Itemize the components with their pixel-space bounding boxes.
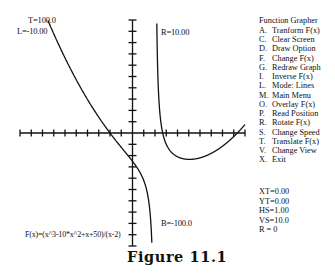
vs-readout: VS=10.0	[259, 216, 289, 226]
curve-right-branch	[157, 23, 245, 159]
menu-item-key: D.	[259, 44, 272, 53]
menu-item-redraw-graph[interactable]: G.Redraw Graph	[259, 63, 321, 72]
menu-item-label: Main Menu	[272, 91, 311, 100]
menu-item-key: X.	[259, 155, 272, 164]
menu-item-key: P.	[259, 109, 272, 118]
function-curve	[48, 20, 245, 242]
menu-item-exit[interactable]: X.Exit	[259, 155, 321, 164]
menu-item-key: V.	[259, 146, 272, 155]
menu-item-label: Exit	[272, 155, 286, 164]
menu-item-inverse-f-x[interactable]: I.Inverse F(x)	[259, 72, 321, 81]
hs-readout: HS=1.00	[259, 206, 289, 216]
menu-item-key: R.	[259, 118, 272, 127]
menu-item-label: Change Speed	[272, 128, 320, 137]
r-readout: R = 0	[259, 225, 289, 235]
menu-item-translate-f-x[interactable]: T.Translate F(x)	[259, 137, 321, 146]
left-bound-label: L=-10.00	[17, 27, 47, 36]
menu-item-key: A.	[259, 26, 272, 35]
menu-item-change-speed[interactable]: S.Change Speed	[259, 128, 321, 137]
menu-item-tranform-f-x[interactable]: A.Tranform F(x)	[259, 26, 321, 35]
menu-item-change-view[interactable]: V.Change View	[259, 146, 321, 155]
xt-readout: XT=0.00	[259, 187, 289, 197]
menu-item-label: Tranform F(x)	[272, 26, 320, 35]
menu-item-label: Inverse F(x)	[272, 72, 313, 81]
menu-item-change-f-x[interactable]: F.Change F(x)	[259, 54, 321, 63]
menu-item-main-menu[interactable]: M.Main Menu	[259, 91, 321, 100]
menu-item-label: Read Position	[272, 109, 318, 118]
menu-item-key: T.	[259, 137, 272, 146]
menu-item-rotate-f-x[interactable]: R.Rotate F(x)	[259, 118, 321, 127]
bottom-bound-label: B=-100.0	[161, 219, 192, 228]
top-bound-label: T=100.0	[28, 16, 56, 25]
menu-item-label: Translate F(x)	[272, 137, 319, 146]
menu-item-clear-screen[interactable]: C.Clear Screen	[259, 35, 321, 44]
menu-item-label: Rotate F(x)	[272, 118, 310, 127]
menu-item-key: L.	[259, 81, 272, 90]
menu-item-key: C.	[259, 35, 272, 44]
menu-item-key: F.	[259, 54, 272, 63]
yt-readout: YT=0.00	[259, 197, 289, 207]
menu-item-key: O.	[259, 100, 272, 109]
menu-item-key: S.	[259, 128, 272, 137]
menu-item-label: Overlay F(x)	[272, 100, 315, 109]
menu-item-key: M.	[259, 91, 272, 100]
menu-item-label: Change View	[272, 146, 317, 155]
right-bound-label: R=10.00	[161, 28, 189, 37]
menu: Function Grapher A.Tranform F(x)C.Clear …	[259, 16, 321, 165]
menu-title: Function Grapher	[259, 16, 321, 25]
menu-item-mode-lines[interactable]: L.Mode: Lines	[259, 81, 321, 90]
menu-item-key: G.	[259, 63, 272, 72]
menu-item-label: Redraw Graph	[272, 63, 321, 72]
axes	[20, 20, 245, 246]
menu-item-label: Draw Option	[272, 44, 316, 53]
menu-item-key: I.	[259, 72, 272, 81]
figure-caption: Figure 11.1	[127, 248, 227, 265]
menu-item-label: Clear Screen	[272, 35, 315, 44]
function-label: F(x)=(x^3-10*x^2+x+50)/(x-2)	[25, 230, 120, 239]
menu-item-label: Mode: Lines	[272, 81, 314, 90]
menu-item-label: Change F(x)	[272, 54, 314, 63]
status-panel: XT=0.00 YT=0.00 HS=1.00 VS=10.0 R = 0	[259, 187, 289, 235]
menu-item-overlay-f-x[interactable]: O.Overlay F(x)	[259, 100, 321, 109]
menu-item-read-position[interactable]: P.Read Position	[259, 109, 321, 118]
menu-item-draw-option[interactable]: D.Draw Option	[259, 44, 321, 53]
